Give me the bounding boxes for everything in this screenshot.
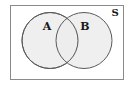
universal-set-label: S bbox=[111, 7, 118, 18]
set-b-label: B bbox=[80, 20, 89, 33]
set-a-label: A bbox=[42, 20, 52, 33]
venn-diagram: A B S bbox=[0, 0, 129, 85]
